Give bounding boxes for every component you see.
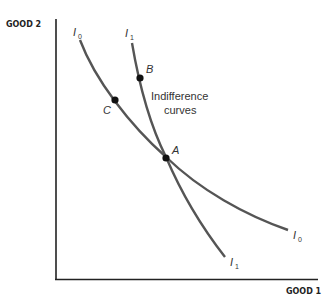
svg-text:I: I (293, 229, 296, 241)
svg-text:I: I (125, 27, 128, 39)
annotation-line1: Indifference (151, 90, 208, 102)
curve-label-i0-top: I 0 (73, 26, 82, 40)
point-b-label: B (146, 63, 153, 75)
svg-text:I: I (230, 256, 233, 268)
annotation-line2: curves (164, 104, 197, 116)
svg-text:I: I (73, 26, 76, 38)
point-c-marker (111, 96, 118, 103)
point-a-label: A (171, 144, 179, 156)
x-axis-label: GOOD 1 (286, 287, 322, 296)
y-axis-label: GOOD 2 (6, 20, 41, 29)
svg-text:0: 0 (298, 236, 302, 243)
point-a-marker (162, 154, 169, 161)
indifference-curve-diagram: GOOD 2 GOOD 1 I 0 I 1 I 0 I 1 A B C Indi… (0, 0, 335, 305)
curve-i0 (80, 40, 288, 230)
curve-label-i0-bottom: I 0 (293, 229, 302, 243)
svg-text:1: 1 (130, 34, 134, 41)
curve-label-i1-top: I 1 (125, 27, 134, 41)
curve-label-i1-bottom: I 1 (230, 256, 239, 270)
point-c-label: C (103, 104, 111, 116)
point-b-marker (136, 74, 143, 81)
svg-text:1: 1 (235, 263, 239, 270)
svg-text:0: 0 (78, 33, 82, 40)
